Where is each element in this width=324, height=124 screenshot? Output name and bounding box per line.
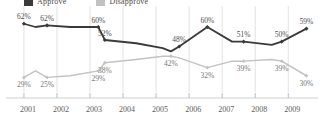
value-label-approve-48: 48%: [172, 35, 186, 44]
x-tick-label-2008: 2008: [251, 105, 267, 114]
value-label-disapprove-29: 29%: [91, 74, 105, 83]
value-label-approve-60: 60%: [200, 16, 214, 25]
chart-legend: Approve Disapprove: [24, 0, 178, 6]
x-tick-label-2007: 2007: [218, 105, 234, 114]
value-label-approve-50: 50%: [275, 30, 289, 39]
x-tick-label-2003: 2003: [86, 105, 102, 114]
legend-swatch-approve: [24, 0, 33, 6]
value-label-approve-60: 60%: [91, 16, 105, 25]
value-label-disapprove-39: 39%: [237, 64, 251, 73]
x-tick-label-2002: 2002: [53, 105, 69, 114]
chart-series-layer: [22, 22, 309, 80]
value-label-disapprove-38: 38%: [98, 66, 112, 75]
data-point-approve-51: [242, 40, 246, 44]
x-tick-label-2004: 2004: [119, 105, 135, 114]
chart-gridlines: [24, 6, 288, 92]
data-point-approve-62: [22, 22, 26, 26]
x-tick-label-2001: 2001: [20, 105, 36, 114]
x-tick-label-2006: 2006: [185, 105, 201, 114]
legend-item-approve: Approve: [24, 0, 66, 6]
legend-item-disapprove: Disapprove: [96, 0, 148, 6]
legend-label-approve: Approve: [37, 0, 66, 6]
chart-value-labels: 62%62%60%52%48%60%51%50%59%29%25%29%38%4…: [17, 12, 313, 89]
value-label-disapprove-25: 25%: [40, 80, 54, 89]
data-point-approve-62: [45, 23, 49, 27]
value-label-approve-62: 62%: [17, 12, 31, 21]
value-label-disapprove-29: 29%: [17, 80, 31, 89]
value-label-disapprove-42: 42%: [164, 59, 178, 68]
chart-plot-area: 62%62%60%52%48%60%51%50%59%29%25%29%38%4…: [0, 0, 324, 124]
value-label-approve-62: 62%: [40, 14, 54, 23]
value-label-approve-52: 52%: [98, 29, 112, 38]
series-line-approve: [24, 24, 307, 52]
legend-label-disapprove: Disapprove: [109, 0, 148, 6]
value-label-disapprove-30: 30%: [300, 79, 314, 88]
data-point-disapprove-42: [169, 54, 173, 58]
value-label-approve-51: 51%: [237, 30, 251, 39]
value-label-disapprove-32: 32%: [200, 71, 214, 80]
chart-x-axis: [6, 93, 318, 98]
data-point-disapprove-32: [205, 66, 209, 70]
legend-swatch-disapprove: [96, 0, 105, 6]
approval-trend-chart: Approve Disapprove 62%62%60%52%48%60%51%…: [0, 0, 324, 124]
x-tick-label-2009: 2009: [284, 105, 300, 114]
value-label-disapprove-39: 39%: [275, 64, 289, 73]
chart-x-tick-labels: 200120022003200420052006200720082009: [20, 105, 300, 114]
data-point-disapprove-39: [242, 59, 246, 63]
x-tick-label-2005: 2005: [152, 105, 168, 114]
value-label-approve-59: 59%: [300, 17, 314, 26]
